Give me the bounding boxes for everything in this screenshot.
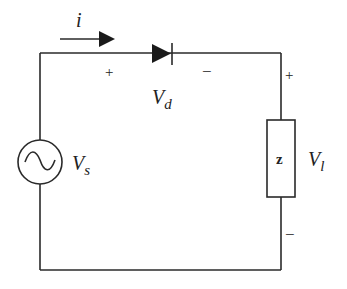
diode-voltage-label: Vd [152,86,172,112]
load-plus-label: + [285,67,293,83]
sine-wave-icon [25,152,55,170]
diode-plus-label: + [105,64,113,80]
current-arrow-icon [99,31,115,47]
load-box-label: z [276,151,283,167]
current-label: i [76,9,82,31]
circuit-diagram: i + − Vd Vs + z Vl − [0,0,347,289]
diode-minus-label: − [202,62,212,81]
load-voltage-label: Vl [308,148,324,174]
source-voltage-label-main: Vs [72,152,90,178]
diode-icon [152,44,171,63]
load-minus-label: − [285,225,295,244]
